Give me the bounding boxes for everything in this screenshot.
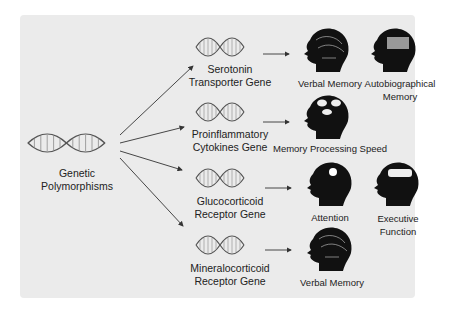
gene-label-glucocorticoid: Glucocorticoid Receptor Gene	[180, 195, 280, 221]
gene-label-mineralocorticoid: Mineralocorticoid Receptor Gene	[180, 262, 280, 288]
outcome-executive-function: Executive Function	[358, 212, 438, 238]
outcome-verbal-memory: Verbal Memory	[290, 77, 370, 90]
source-dna-icon	[28, 134, 105, 152]
gene-label-cytokines: Proinflammatory Cytokines Gene	[180, 128, 280, 154]
outcome-memory-processing-speed: Memory Processing Speed	[270, 142, 390, 155]
attention-head-icon	[307, 162, 352, 206]
mineralocorticoid-dna-icon	[196, 236, 244, 254]
cytokines-dna-icon	[196, 103, 244, 121]
verbal-memory-head-icon-2	[307, 227, 352, 271]
gene-label-serotonin: Serotonin Transporter Gene	[180, 63, 280, 89]
outcome-autobiographical-memory: Autobiographical Memory	[360, 77, 440, 103]
source-label: Genetic Polymorphisms	[32, 167, 122, 193]
autobiographical-memory-head-icon	[371, 28, 416, 72]
processing-speed-head-icon	[304, 95, 349, 139]
executive-function-head-icon	[374, 162, 419, 206]
serotonin-dna-icon	[196, 38, 244, 56]
glucocorticoid-dna-icon	[196, 169, 244, 187]
verbal-memory-head-icon	[304, 28, 349, 72]
outcome-verbal-memory-2: Verbal Memory	[287, 276, 377, 289]
